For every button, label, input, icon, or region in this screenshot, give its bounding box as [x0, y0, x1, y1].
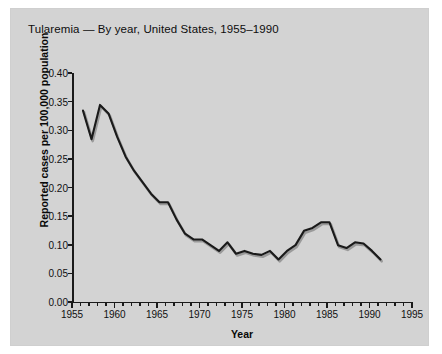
x-tick-mark-minor [267, 302, 268, 306]
x-tick-mark-minor [309, 302, 310, 306]
y-tick-label: 0.05 [49, 268, 68, 279]
x-tick-mark-minor [250, 302, 251, 306]
x-tick-mark-minor [275, 302, 276, 306]
x-tick-label: 1975 [231, 309, 253, 320]
y-tick-label: 0.25 [49, 153, 68, 164]
x-tick-mark-major [326, 302, 327, 308]
x-tick-mark-major [71, 302, 72, 308]
x-tick-mark-minor [122, 302, 123, 306]
x-tick-mark-minor [97, 302, 98, 306]
x-tick-mark-minor [335, 302, 336, 306]
y-axis-ticks: 0.000.050.100.150.200.250.300.350.40 [29, 9, 68, 354]
x-tick-label: 1995 [401, 309, 423, 320]
x-tick-mark-minor [394, 302, 395, 306]
chart-card: Tularemia — By year, United States, 1955… [11, 9, 428, 345]
x-tick-mark-minor [386, 302, 387, 306]
x-tick-label: 1985 [316, 309, 338, 320]
y-tick-label: 0.15 [49, 211, 68, 222]
y-tick-label: 0.10 [49, 239, 68, 250]
x-tick-mark-major [284, 302, 285, 308]
y-tick-mark [68, 158, 72, 160]
y-tick-mark [68, 215, 72, 217]
x-tick-label: 1980 [273, 309, 295, 320]
x-tick-mark-minor [165, 302, 166, 306]
y-tick-mark [68, 101, 72, 103]
y-tick-mark [68, 130, 72, 132]
y-axis-line [72, 73, 74, 303]
x-tick-mark-minor [216, 302, 217, 306]
x-tick-mark-minor [131, 302, 132, 306]
x-tick-mark-minor [190, 302, 191, 306]
y-tick-label: 0.40 [49, 68, 68, 79]
x-tick-mark-minor [301, 302, 302, 306]
x-tick-label: 1990 [358, 309, 380, 320]
x-tick-mark-major [411, 302, 412, 308]
y-tick-label: 0.30 [49, 125, 68, 136]
x-tick-mark-minor [360, 302, 361, 306]
y-tick-mark [68, 244, 72, 246]
x-tick-mark-minor [343, 302, 344, 306]
x-tick-label: 1960 [103, 309, 125, 320]
y-tick-mark [68, 273, 72, 275]
x-tick-mark-major [156, 302, 157, 308]
x-tick-mark-minor [258, 302, 259, 306]
y-tick-label: 0.35 [49, 96, 68, 107]
y-tick-mark [68, 72, 72, 74]
x-tick-mark-minor [182, 302, 183, 306]
x-tick-mark-minor [207, 302, 208, 306]
series-line-tularemia [83, 105, 381, 260]
x-axis-label: Year [72, 328, 412, 340]
x-tick-mark-minor [139, 302, 140, 306]
x-tick-mark-minor [403, 302, 404, 306]
x-tick-mark-minor [173, 302, 174, 306]
x-tick-mark-minor [233, 302, 234, 306]
x-tick-mark-major [199, 302, 200, 308]
y-tick-label: 0.20 [49, 182, 68, 193]
x-tick-label: 1970 [188, 309, 210, 320]
x-tick-mark-minor [318, 302, 319, 306]
x-tick-label: 1955 [61, 309, 83, 320]
y-tick-label: 0.00 [49, 297, 68, 308]
x-tick-mark-major [241, 302, 242, 308]
x-tick-mark-major [114, 302, 115, 308]
x-tick-mark-minor [377, 302, 378, 306]
x-tick-mark-minor [224, 302, 225, 306]
x-tick-mark-minor [80, 302, 81, 306]
x-tick-mark-minor [292, 302, 293, 306]
y-tick-mark [68, 187, 72, 189]
x-tick-mark-minor [352, 302, 353, 306]
x-tick-mark-major [369, 302, 370, 308]
x-tick-mark-minor [88, 302, 89, 306]
x-tick-mark-minor [105, 302, 106, 306]
series-shadow-line [84, 107, 382, 262]
x-tick-mark-minor [148, 302, 149, 306]
x-tick-label: 1965 [146, 309, 168, 320]
